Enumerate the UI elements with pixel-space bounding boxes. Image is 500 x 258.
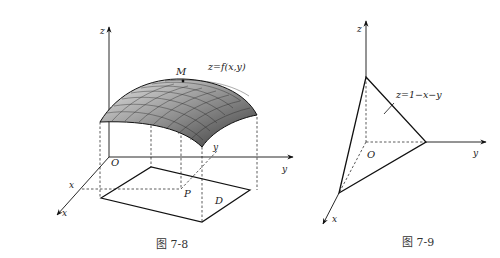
caption-7-9: 图 7-9 xyxy=(402,236,434,249)
x-axis-label: x xyxy=(332,214,337,224)
z-axis-label: z xyxy=(356,24,362,34)
point-p-label: P xyxy=(183,188,191,199)
origin-label: O xyxy=(367,149,375,160)
figure-7-8: z y x x y O M P D z=f(x,y) 图 7-8 xyxy=(57,26,293,251)
figure-7-9: z y x O z=1−x−y 图 7-9 xyxy=(323,21,486,249)
region-d-label: D xyxy=(214,195,223,206)
x-axis-label: x xyxy=(62,208,67,218)
point-m-dot xyxy=(182,80,185,83)
region-d xyxy=(101,167,250,222)
surface xyxy=(100,79,257,147)
y-tick-label: y xyxy=(212,142,219,152)
origin-label: O xyxy=(111,157,119,168)
plane-equation: z=1−x−y xyxy=(395,89,442,100)
y-axis-label: y xyxy=(472,148,479,158)
surface-equation: z=f(x,y) xyxy=(207,61,246,72)
y-axis-label: y xyxy=(281,164,288,174)
point-m-label: M xyxy=(175,66,187,77)
x-tick-label: x xyxy=(69,180,74,190)
plane-leader-line xyxy=(384,103,394,114)
x-axis xyxy=(57,157,109,215)
figures-page: z y x x y O M P D z=f(x,y) 图 7-8 z y x O… xyxy=(0,0,500,258)
caption-7-8: 图 7-8 xyxy=(156,238,188,251)
z-axis-label: z xyxy=(99,26,105,36)
